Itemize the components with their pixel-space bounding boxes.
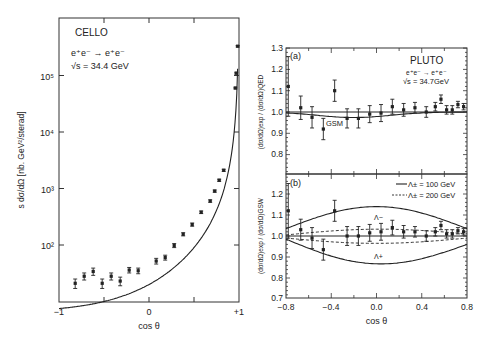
panel-b-label: (b) [290, 178, 301, 188]
a-ytick-1.2: 1.2 [271, 64, 283, 74]
pluto-b-point-marker [287, 209, 290, 212]
pluto-b-point-marker [445, 232, 448, 235]
pluto-a-point-marker [413, 106, 416, 109]
pluto-a-point-marker [439, 98, 442, 101]
cello-point-marker [191, 223, 194, 226]
pluto-reaction: e⁺e⁻ → e⁺e⁻ [406, 69, 447, 76]
pluto-b-point-marker [439, 224, 442, 227]
a-ytick-0.8: 0.8 [271, 149, 283, 159]
pluto-xlabel: cos θ [366, 316, 388, 326]
cello-xtick-minus1: −1 [54, 307, 64, 317]
r-xtick-minus0.8: −0.8 [278, 302, 295, 312]
pluto-a-point-marker [445, 108, 448, 111]
r-xtick-0.0: 0.0 [371, 302, 383, 312]
pluto-b-point-marker [434, 230, 437, 233]
pluto-a-point-marker [462, 105, 465, 108]
cello-point-marker [128, 268, 131, 271]
a-ytick-1.1: 1.1 [271, 86, 283, 96]
cello-title: CELLO [75, 27, 108, 38]
pluto-a-point-marker [345, 117, 348, 120]
pluto-a-point-marker [456, 103, 459, 106]
b-ytick-1.1: 1.1 [271, 210, 283, 220]
cello-point-marker [83, 275, 86, 278]
pluto-energy: √s = 34.7GeV [403, 77, 449, 86]
pluto-a-point-marker [402, 108, 405, 111]
r-xtick-0.4: 0.4 [416, 302, 428, 312]
a-ytick-1.3: 1.3 [271, 43, 283, 53]
a-ylabel: (dσ/dΩ)exp / (dσ/dΩ)QED [257, 74, 265, 149]
pluto-a-point-marker [287, 85, 290, 88]
lambda-minus-label: Λ− [374, 214, 383, 221]
pluto-a-point-marker [391, 105, 394, 108]
pluto-b-point-marker [402, 230, 405, 233]
panel-a-label: (a) [290, 51, 301, 61]
cello-point-marker [209, 199, 212, 202]
a-ytick-0.9: 0.9 [271, 128, 283, 138]
pluto-b-point-marker [456, 229, 459, 232]
pluto-b-point-marker [322, 248, 325, 251]
cello-point-marker [119, 279, 122, 282]
pluto-title: PLUTO [410, 55, 443, 66]
r-xtick-minus0.4: −0.4 [323, 302, 340, 312]
pluto-a-point-marker [299, 106, 302, 109]
cello-point-marker [235, 72, 238, 75]
cello-point-marker [236, 45, 239, 48]
cello-point-marker [218, 179, 221, 182]
lambda-plus-label: Λ+ [374, 253, 383, 260]
cello-point-marker [74, 282, 77, 285]
pluto-a-point-marker [434, 105, 437, 108]
pluto-b-point-marker [310, 237, 313, 240]
b-ytick-1.0: 1.0 [271, 231, 283, 241]
cello-xlabel: cos θ [138, 321, 160, 331]
pluto-a-point-marker [368, 113, 371, 116]
cello-point-marker [200, 211, 203, 214]
pluto-a-point-marker [310, 116, 313, 119]
cello-point-marker [173, 244, 176, 247]
cello-point-marker [222, 169, 225, 172]
cello-energy: √s = 34.4 GeV [71, 61, 129, 71]
cello-ytick-1e2: 10² [41, 241, 54, 251]
pluto-b-point-marker [368, 231, 371, 234]
legend-solid-label: Λ± = 100 GeV [408, 180, 455, 189]
pluto-b-point-marker [425, 234, 428, 237]
cello-point-marker [182, 233, 185, 236]
pluto-a-point-marker [379, 111, 382, 114]
pluto-b-point-marker [391, 226, 394, 229]
b-ylabel: (dσ/dΩ)exp / (dσ/dΩ)GSW [257, 197, 265, 274]
pluto-b-point-marker [379, 230, 382, 233]
pluto-plot: (a) PLUTO e⁺e⁻ → e⁺e⁻ √s = 34.7GeV GSM (… [257, 43, 473, 326]
physics-figure: CELLO e⁺e⁻ → e⁺e⁻ √s = 34.4 GeV 10² 10³ … [0, 0, 492, 344]
cello-data-points [73, 45, 239, 289]
cello-reaction: e⁺e⁻ → e⁺e⁻ [71, 48, 125, 58]
cello-xtick-plus1: +1 [234, 307, 244, 317]
pluto-b-point-marker [462, 230, 465, 233]
cello-plot: CELLO e⁺e⁻ → e⁺e⁻ √s = 34.4 GeV 10² 10³ … [16, 18, 244, 331]
gsm-label: GSM [326, 119, 343, 128]
cello-point-marker [101, 282, 104, 285]
cello-point-marker [92, 270, 95, 273]
cello-point-marker [155, 259, 158, 262]
b-ytick-0.9: 0.9 [271, 252, 283, 262]
cello-ytick-1e4: 10⁴ [40, 128, 54, 138]
pluto-a-point-marker [322, 127, 325, 130]
cello-point-marker [110, 275, 113, 278]
pluto-b-point-marker [357, 234, 360, 237]
b-ytick-1.2: 1.2 [271, 189, 283, 199]
pluto-b-point-marker [345, 234, 348, 237]
pluto-a-point-marker [333, 89, 336, 92]
pluto-b-point-marker [333, 209, 336, 212]
pluto-b-point-marker [413, 230, 416, 233]
cello-ytick-1e3: 10³ [41, 185, 54, 195]
pluto-b-point-marker [299, 228, 302, 231]
a-ytick-1.0: 1.0 [271, 107, 283, 117]
pluto-frame-a [286, 48, 467, 174]
cello-point-marker [164, 256, 167, 259]
cello-point-marker [137, 269, 140, 272]
cello-xtick-0: 0 [146, 307, 151, 317]
cello-ytick-1e5: 10⁵ [40, 72, 54, 82]
b-ytick-0.8: 0.8 [271, 273, 283, 283]
pluto-a-point-marker [425, 110, 428, 113]
pluto-a-point-marker [357, 117, 360, 120]
cello-point-marker [213, 189, 216, 192]
legend-dashed-label: Λ± = 200 GeV [408, 191, 455, 200]
